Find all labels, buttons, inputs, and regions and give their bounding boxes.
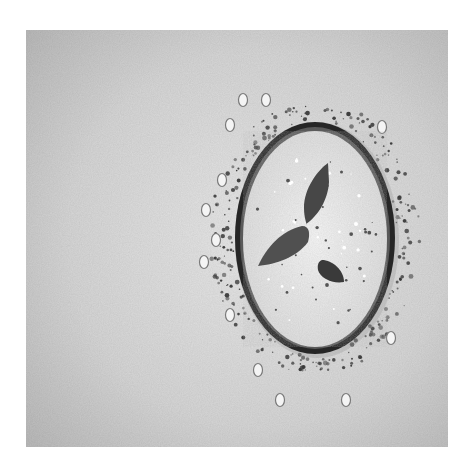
herb-crumb (384, 153, 387, 156)
herb-crumb (272, 352, 273, 353)
herb-crumb (222, 273, 226, 277)
herb-crumb (408, 240, 412, 244)
herb-crumb (359, 113, 363, 117)
herb-crumb (301, 116, 302, 117)
herb-crumb (265, 125, 269, 129)
soup-speck (295, 159, 299, 163)
herb-crumb (323, 361, 328, 366)
herb-crumb (239, 288, 241, 290)
soup-speck (358, 267, 362, 271)
soup-speck (345, 279, 348, 282)
herb-crumb (396, 281, 399, 284)
soup-speck (295, 254, 297, 256)
herb-crumb (398, 195, 402, 199)
soup-speck (363, 280, 365, 282)
herb-crumb (386, 315, 390, 319)
herb-crumb (291, 362, 294, 365)
soup-speck (289, 319, 291, 321)
herb-crumb (348, 352, 349, 353)
herb-crumb (404, 229, 409, 234)
seed (218, 174, 227, 187)
herb-crumb (235, 280, 240, 285)
herb-crumb (226, 171, 230, 175)
herb-crumb (305, 111, 310, 116)
herb-crumb (351, 358, 353, 360)
herb-crumb (288, 369, 289, 370)
herb-crumb (292, 111, 293, 112)
soup-speck (363, 274, 366, 277)
soup-speck (350, 173, 351, 174)
herb-crumb (287, 107, 292, 112)
herb-crumb (268, 338, 272, 342)
herb-crumb (293, 107, 295, 109)
herb-crumb (350, 362, 353, 365)
soup-speck (295, 219, 297, 221)
herb-crumb (399, 278, 401, 280)
herb-crumb (305, 106, 306, 107)
soup-speck (364, 231, 367, 234)
herb-crumb (391, 290, 393, 292)
soup-speck (286, 291, 289, 294)
herb-crumb (305, 369, 306, 370)
herb-crumb (285, 355, 289, 359)
soup-speck (342, 246, 346, 250)
herb-crumb (331, 110, 333, 112)
herb-crumb (312, 362, 314, 364)
soup-speck (256, 208, 259, 211)
herb-crumb (245, 155, 247, 157)
herb-crumb (328, 359, 330, 361)
herb-crumb (227, 264, 231, 268)
herb-crumb (335, 122, 338, 125)
herb-crumb (418, 240, 421, 243)
soup-speck (333, 308, 335, 310)
herb-crumb (340, 112, 342, 114)
herb-crumb (214, 273, 218, 277)
soup-speck (325, 283, 329, 287)
herb-crumb (229, 200, 231, 202)
herb-crumb (221, 260, 225, 264)
herb-crumb (241, 336, 245, 340)
soup-speck (315, 226, 318, 229)
herb-crumb (237, 313, 240, 316)
seed (212, 234, 221, 247)
herb-crumb (403, 172, 407, 176)
herb-crumb (230, 249, 233, 252)
herb-crumb (370, 123, 374, 127)
herb-crumb (256, 349, 260, 353)
herb-crumb (231, 165, 234, 168)
herb-crumb (397, 288, 399, 290)
herb-crumb (210, 257, 214, 261)
soup-speck (349, 232, 353, 236)
herb-crumb (248, 318, 250, 320)
seed (254, 364, 263, 377)
soup-speck (354, 222, 358, 226)
herb-crumb (213, 194, 216, 197)
soup-speck (281, 264, 283, 266)
herb-crumb (399, 218, 401, 220)
seed (226, 309, 235, 322)
herb-crumb (399, 201, 402, 204)
soup-speck (337, 321, 340, 324)
soup-speck (317, 236, 319, 238)
herb-crumb (228, 220, 230, 222)
herb-crumb (366, 118, 369, 121)
herb-crumb (403, 219, 407, 223)
herb-crumb (228, 235, 232, 239)
soup-speck (357, 194, 360, 197)
herb-crumb (246, 150, 249, 153)
herb-crumb (401, 215, 403, 217)
herb-crumb (230, 269, 232, 271)
herb-crumb (237, 168, 239, 170)
soup-speck (322, 206, 324, 208)
herb-crumb (241, 158, 245, 162)
herb-crumb (361, 120, 365, 124)
soup-speck (359, 230, 361, 232)
herb-crumb (342, 366, 345, 369)
herb-crumb (243, 312, 246, 315)
herb-crumb (377, 320, 379, 322)
herb-crumb (254, 146, 258, 150)
herb-crumb (212, 211, 214, 213)
soup-speck (267, 278, 269, 280)
herb-crumb (281, 364, 284, 367)
herb-crumb (261, 121, 263, 123)
